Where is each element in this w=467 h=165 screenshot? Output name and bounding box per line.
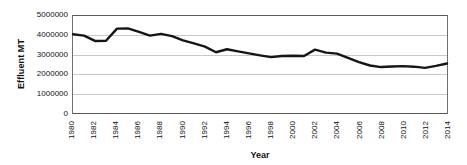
x-tick-label-2014: 2014 [443, 116, 453, 150]
x-tick-label-text: 1984 [112, 121, 120, 139]
series-line-effluent-mt [73, 28, 447, 67]
x-tick-label-2000: 2000 [288, 116, 298, 150]
y-tick-label-4000000: 4000000 [37, 31, 68, 39]
x-tick-label-text: 1992 [201, 121, 209, 139]
x-tick-label-text: 2008 [378, 121, 386, 139]
x-tick-label-2006: 2006 [355, 116, 365, 150]
x-tick-label-text: 2006 [356, 121, 364, 139]
x-tick-label-text: 2010 [400, 121, 408, 139]
x-tick-label-text: 1986 [134, 121, 142, 139]
x-tick-label-text: 1990 [179, 121, 187, 139]
x-tick-label-text: 1982 [90, 121, 98, 139]
x-tick-label-2004: 2004 [332, 116, 342, 150]
x-tick-label-text: 2012 [422, 121, 430, 139]
x-tick-label-text: 1994 [223, 121, 231, 139]
x-tick-label-text: 2004 [333, 121, 341, 139]
x-tick-label-1994: 1994 [222, 116, 232, 150]
x-tick-label-2002: 2002 [310, 116, 320, 150]
y-tick-label-2000000: 2000000 [37, 70, 68, 78]
y-tick-label-1000000: 1000000 [37, 90, 68, 98]
x-tick-label-text: 1988 [156, 121, 164, 139]
x-tick-label-1984: 1984 [111, 116, 121, 150]
x-tick-label-1990: 1990 [178, 116, 188, 150]
x-tick-label-1980: 1980 [67, 116, 77, 150]
plot-area [72, 15, 448, 114]
x-tick-label-text: 2014 [444, 121, 452, 139]
x-tick-label-text: 1980 [68, 121, 76, 139]
x-tick-label-text: 1996 [245, 121, 253, 139]
x-tick-label-text: 2002 [311, 121, 319, 139]
x-tick-label-1998: 1998 [266, 116, 276, 150]
y-tick-label-3000000: 3000000 [37, 51, 68, 59]
y-tick-label-5000000: 5000000 [37, 11, 68, 19]
x-tick-label-2012: 2012 [421, 116, 431, 150]
x-tick-label-text: 1998 [267, 121, 275, 139]
x-tick-label-1988: 1988 [155, 116, 165, 150]
x-axis-title: Year [72, 150, 448, 160]
data-series-effluent-mt [73, 15, 447, 114]
x-tick-label-1982: 1982 [89, 116, 99, 150]
x-tick-label-1986: 1986 [133, 116, 143, 150]
y-axis-tick-labels: 010000002000000300000040000005000000 [26, 0, 71, 165]
x-tick-label-1996: 1996 [244, 116, 254, 150]
x-tick-label-2010: 2010 [399, 116, 409, 150]
x-tick-label-text: 2000 [289, 121, 297, 139]
x-tick-label-1992: 1992 [200, 116, 210, 150]
x-axis-tick-labels: 1980198219841986198819901992199419961998… [72, 116, 448, 152]
x-tick-label-2008: 2008 [377, 116, 387, 150]
line-chart-figure: Effluent MT 0100000020000003000000400000… [0, 0, 467, 165]
y-axis-title-label: Effluent MT [16, 39, 26, 89]
